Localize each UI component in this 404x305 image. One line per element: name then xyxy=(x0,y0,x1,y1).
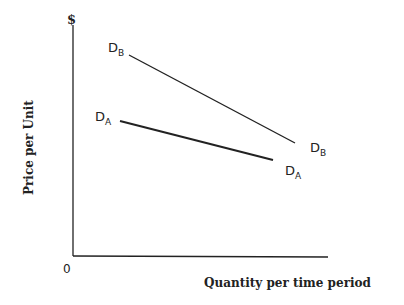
label-db-start: DB xyxy=(108,40,124,58)
x-axis xyxy=(73,256,328,257)
dollar-sign: $ xyxy=(67,12,76,27)
x-axis-label: Quantity per time period xyxy=(204,276,372,290)
label-da-end: DA xyxy=(285,163,302,181)
label-da-start: DA xyxy=(95,109,112,127)
demand-curve-a xyxy=(120,121,273,160)
y-axis-label: Price per Unit xyxy=(22,100,36,195)
label-db-end: DB xyxy=(310,140,326,158)
origin-label: 0 xyxy=(63,262,71,276)
demand-diagram: $ 0 Price per Unit Quantity per time per… xyxy=(0,0,404,305)
